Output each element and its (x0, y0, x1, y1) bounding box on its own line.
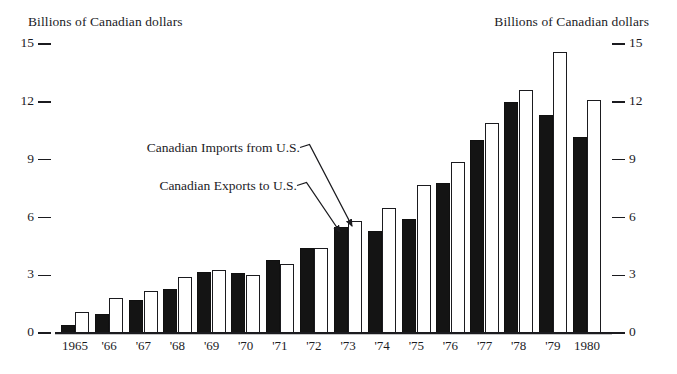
imports-leader-line (300, 145, 352, 227)
x-tick-label-72: '72 (306, 338, 321, 354)
bar-exports-1965 (61, 325, 75, 333)
bar-exports-74 (368, 231, 382, 333)
bar-imports-70 (246, 275, 260, 333)
left-tick-mark-0 (38, 332, 51, 334)
left-tick-label-6: 6 (8, 209, 34, 225)
left-axis-title: Billions of Canadian dollars (28, 14, 183, 30)
x-tick-label-69: '69 (204, 338, 219, 354)
left-tick-label-0: 0 (8, 324, 34, 340)
bar-imports-71 (280, 264, 294, 333)
x-tick-label-78: '78 (511, 338, 526, 354)
left-tick-mark-3 (38, 275, 51, 277)
annotation-imports-label: Canadian Imports from U.S. (0, 140, 300, 156)
x-tick-label-1965: 1965 (62, 338, 88, 354)
bar-imports-1980 (587, 100, 601, 333)
left-tick-label-15: 15 (8, 35, 34, 51)
right-tick-mark-6 (612, 217, 625, 219)
bar-exports-79 (539, 115, 553, 333)
right-tick-label-0: 0 (629, 324, 655, 340)
bar-imports-73 (348, 221, 362, 333)
left-tick-mark-6 (38, 217, 51, 219)
x-tick-label-75: '75 (409, 338, 424, 354)
bar-imports-76 (451, 162, 465, 334)
right-axis-title: Billions of Canadian dollars (494, 14, 649, 30)
bar-imports-1965 (75, 312, 89, 333)
right-tick-label-15: 15 (629, 35, 655, 51)
annotation-exports-label: Canadian Exports to U.S. (0, 178, 297, 194)
x-tick-label-76: '76 (443, 338, 458, 354)
bar-imports-72 (314, 248, 328, 333)
right-tick-label-3: 3 (629, 266, 655, 282)
x-tick-label-68: '68 (170, 338, 185, 354)
bar-exports-70 (231, 273, 245, 333)
bar-exports-71 (266, 260, 280, 333)
bar-imports-78 (519, 90, 533, 333)
right-tick-mark-0 (612, 332, 625, 334)
bar-imports-74 (382, 208, 396, 333)
x-tick-label-74: '74 (375, 338, 390, 354)
bar-imports-68 (178, 277, 192, 333)
x-tick-label-77: '77 (477, 338, 492, 354)
bar-exports-77 (470, 140, 484, 333)
x-tick-label-67: '67 (136, 338, 151, 354)
right-tick-label-9: 9 (629, 151, 655, 167)
bar-exports-72 (300, 248, 314, 333)
bar-imports-77 (485, 123, 499, 333)
bar-exports-69 (197, 272, 211, 334)
right-tick-mark-3 (612, 275, 625, 277)
left-tick-mark-12 (38, 101, 51, 103)
bar-exports-66 (95, 314, 109, 333)
x-tick-label-79: '79 (545, 338, 560, 354)
x-tick-label-70: '70 (238, 338, 253, 354)
right-tick-label-6: 6 (629, 209, 655, 225)
bar-exports-78 (504, 102, 518, 333)
bar-exports-67 (129, 300, 143, 333)
bar-imports-79 (553, 52, 567, 333)
x-tick-label-1980: 1980 (574, 338, 600, 354)
bar-exports-68 (163, 289, 177, 333)
right-tick-mark-15 (612, 43, 625, 45)
right-tick-mark-12 (612, 101, 625, 103)
right-tick-mark-9 (612, 159, 625, 161)
x-tick-label-66: '66 (102, 338, 117, 354)
bar-imports-69 (212, 270, 226, 334)
bar-imports-67 (144, 291, 158, 333)
left-tick-label-12: 12 (8, 93, 34, 109)
bar-exports-76 (436, 183, 450, 333)
left-tick-mark-9 (38, 159, 51, 161)
bar-imports-66 (109, 298, 123, 333)
bar-imports-75 (417, 185, 431, 333)
bar-exports-75 (402, 219, 416, 333)
left-tick-label-3: 3 (8, 266, 34, 282)
exports-leader-line (297, 183, 340, 233)
x-tick-label-71: '71 (272, 338, 287, 354)
chart-canvas: Billions of Canadian dollars Billions of… (0, 0, 677, 374)
bar-exports-1980 (573, 137, 587, 334)
left-tick-mark-15 (38, 43, 51, 45)
bar-exports-73 (334, 227, 348, 333)
x-tick-label-73: '73 (340, 338, 355, 354)
right-tick-label-12: 12 (629, 93, 655, 109)
